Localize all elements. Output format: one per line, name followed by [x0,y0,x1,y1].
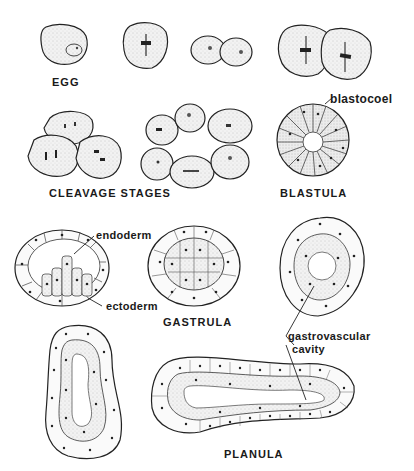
gastrula-early [15,230,109,306]
annotation-cavity: cavity [292,343,325,355]
planula-horizontal [152,345,355,433]
label-egg: EGG [52,76,79,88]
annotation-endoderm: endoderm [96,229,152,241]
two-cell-stage-large [278,25,371,79]
gastrula-solid [148,226,240,306]
annotation-ectoderm: ectoderm [106,300,158,312]
label-cleavage-stages: CLEAVAGE STAGES [49,187,171,199]
annotation-blastocoel: blastocoel [330,93,392,105]
egg-cell [41,24,87,64]
blastula [277,98,349,176]
zygote-mitosis [123,23,167,69]
cleavage-four-cell [28,111,121,178]
gastrula-with-cavity [280,217,364,345]
cleavage-eight-cell [141,104,252,188]
annotation-gastrovascular: gastrovascular [288,330,370,342]
ectoderm-leader-line [88,298,102,306]
two-cell-stage-small [191,36,252,66]
label-blastula: BLASTULA [280,187,347,199]
planula-vertical [46,325,122,458]
label-gastrula: GASTRULA [163,316,232,328]
embryo-diagram [0,0,414,471]
label-planula: PLANULA [224,448,284,460]
